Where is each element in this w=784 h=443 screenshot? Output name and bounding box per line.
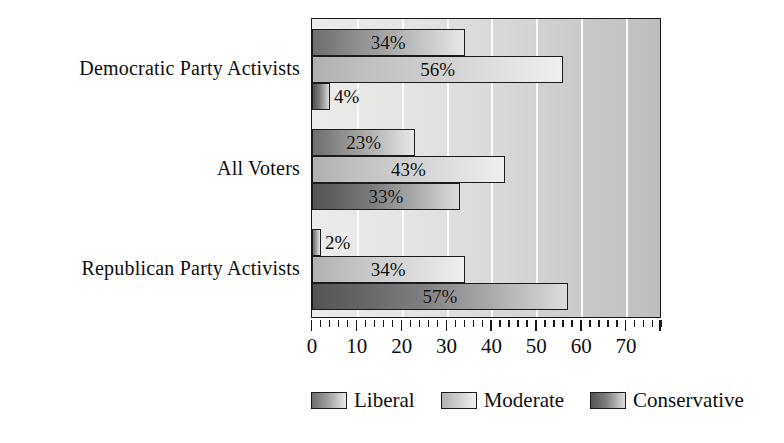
bar-value-label: 4% [334, 87, 359, 106]
axis-tick-minor [464, 320, 465, 327]
axis-tick-minor [634, 320, 635, 327]
legend-label: Liberal [354, 390, 415, 411]
axis-tick-minor [482, 320, 483, 327]
bar-liberal-3: 2% [312, 229, 321, 256]
bar-conservative-1: 4% [312, 83, 330, 110]
axis-tick-minor [643, 320, 644, 327]
axis-tick-minor [652, 320, 653, 327]
axis-tick-major [401, 320, 402, 331]
category-axis-labels: Democratic Party ActivistsAll VotersRepu… [0, 0, 300, 443]
axis-tick-major [580, 320, 581, 331]
axis-tick-minor [544, 320, 545, 327]
axis-tick-label: 0 [307, 336, 318, 357]
axis-tick-label: 70 [616, 336, 637, 357]
category-label-3: Republican Party Activists [0, 258, 300, 278]
gridline [581, 19, 583, 317]
bar-value-label: 33% [369, 187, 404, 206]
axis-tick-minor [338, 320, 339, 327]
bar-moderate-1: 56% [312, 56, 563, 83]
axis-tick-minor [499, 320, 500, 327]
chart-legend: LiberalModerateConservative [311, 385, 771, 415]
legend-item-liberal[interactable]: Liberal [311, 390, 415, 411]
axis-tick-minor [508, 320, 509, 327]
bar-value-label: 34% [371, 33, 406, 52]
legend-label: Moderate [484, 390, 564, 411]
axis-tick-minor [598, 320, 599, 327]
bar-value-label: 2% [325, 233, 350, 252]
legend-label: Conservative [633, 390, 744, 411]
axis-tick-minor [329, 320, 330, 327]
bar-liberal-2: 23% [312, 129, 415, 156]
axis-tick-label: 30 [436, 336, 457, 357]
axis-tick-label: 20 [391, 336, 412, 357]
axis-tick-minor [473, 320, 474, 327]
plot-area: 34%56%4%23%43%33%2%34%57% [311, 18, 661, 318]
axis-tick-minor [428, 320, 429, 327]
x-axis-tick-labels: 010203040506070 [311, 336, 671, 364]
legend-swatch-moderate [441, 392, 477, 409]
bar-conservative-3: 57% [312, 283, 568, 310]
axis-tick-minor [455, 320, 456, 327]
axis-tick-minor [553, 320, 554, 327]
bar-liberal-1: 34% [312, 29, 465, 56]
axis-tick-minor [616, 320, 617, 327]
chart-figure: Democratic Party ActivistsAll VotersRepu… [0, 0, 784, 443]
axis-tick-minor [517, 320, 518, 327]
axis-tick-minor [392, 320, 393, 327]
axis-tick-minor [320, 320, 321, 327]
axis-tick-label: 40 [481, 336, 502, 357]
axis-tick-minor [571, 320, 572, 327]
axis-tick-minor [383, 320, 384, 327]
axis-tick-major [446, 320, 447, 331]
axis-tick-major [490, 320, 491, 331]
axis-tick-minor [607, 320, 608, 327]
axis-tick-minor [365, 320, 366, 327]
axis-tick-label: 50 [526, 336, 547, 357]
axis-tick-minor [347, 320, 348, 327]
axis-tick-minor [419, 320, 420, 327]
axis-tick-label: 10 [346, 336, 367, 357]
axis-tick-major [625, 320, 626, 331]
bar-conservative-2: 33% [312, 183, 460, 210]
bar-value-label: 57% [422, 287, 457, 306]
gridline [626, 19, 628, 317]
legend-item-moderate[interactable]: Moderate [441, 390, 564, 411]
axis-tick-minor [374, 320, 375, 327]
bar-value-label: 43% [391, 160, 426, 179]
legend-item-conservative[interactable]: Conservative [590, 390, 744, 411]
bar-value-label: 23% [346, 133, 381, 152]
bar-value-label: 34% [371, 260, 406, 279]
legend-swatch-conservative [590, 392, 626, 409]
axis-tick-minor [562, 320, 563, 327]
bar-moderate-2: 43% [312, 156, 505, 183]
axis-tick-major [356, 320, 357, 331]
bar-value-label: 56% [420, 60, 455, 79]
bar-moderate-3: 34% [312, 256, 465, 283]
legend-swatch-liberal [311, 392, 347, 409]
axis-tick-minor [437, 320, 438, 327]
axis-tick-minor [526, 320, 527, 327]
axis-tick-minor [410, 320, 411, 327]
x-axis-ticks [311, 320, 661, 334]
axis-tick-label: 60 [571, 336, 592, 357]
axis-tick-major [535, 320, 536, 331]
axis-tick-major [311, 320, 312, 331]
axis-tick-minor [661, 320, 662, 327]
category-label-2: All Voters [0, 158, 300, 178]
category-label-1: Democratic Party Activists [0, 58, 300, 78]
axis-tick-minor [589, 320, 590, 327]
